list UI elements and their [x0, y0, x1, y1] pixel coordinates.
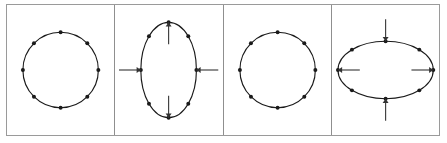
panel-2-particle-4 — [187, 102, 191, 106]
panel-1-particle-7 — [21, 68, 25, 72]
panel-1-diagram — [7, 5, 114, 135]
arrow-left-inward-head — [137, 67, 141, 73]
panel-3-particle-6 — [248, 95, 252, 99]
panel-4-particle-8 — [350, 48, 354, 52]
figure-root — [0, 0, 447, 143]
arrow-right-icon — [411, 67, 433, 73]
panel-1-particle-5 — [59, 106, 63, 110]
arrow-down-icon — [166, 96, 172, 118]
arrow-left-icon — [338, 67, 360, 73]
panel-2-particle-8 — [147, 34, 151, 38]
panel-3-particle-2 — [302, 41, 306, 45]
arrow-right-inward-icon — [197, 67, 219, 73]
panel-4-diagram — [332, 5, 439, 135]
panel-2-particle-6 — [147, 102, 151, 106]
panel-3 — [224, 5, 332, 135]
arrow-left-inward-icon — [119, 67, 141, 73]
panel-4-particle-6 — [350, 88, 354, 92]
panel-1-particle-2 — [85, 41, 89, 45]
panel-3-particle-5 — [275, 106, 279, 110]
panel-3-diagram — [224, 5, 331, 135]
panel-2-diagram — [115, 5, 222, 135]
panel-1-particle-6 — [32, 95, 36, 99]
arrow-top-inward-icon — [382, 19, 388, 41]
arrow-right-inward-head — [197, 67, 201, 73]
arrow-bottom-inward-icon — [382, 99, 388, 121]
panel-4-particle-4 — [417, 88, 421, 92]
panel-1-particle-3 — [96, 68, 100, 72]
panel-4 — [332, 5, 439, 135]
arrow-bottom-inward-head — [382, 99, 388, 103]
panel-2 — [115, 5, 223, 135]
arrow-top-inward-head — [382, 37, 388, 41]
panel-1-particle-8 — [32, 41, 36, 45]
panel-1-particle-4 — [85, 95, 89, 99]
panel-4-particle-2 — [417, 48, 421, 52]
panel-3-particle-8 — [248, 41, 252, 45]
panel-1-particle-1 — [59, 30, 63, 34]
panel-1 — [7, 5, 115, 135]
panel-strip — [7, 5, 439, 135]
panel-2-particle-2 — [187, 34, 191, 38]
panel-3-particle-1 — [275, 30, 279, 34]
panel-3-particle-4 — [302, 95, 306, 99]
panel-3-particle-3 — [313, 68, 317, 72]
arrow-up-icon — [166, 22, 172, 44]
panel-3-particle-7 — [237, 68, 241, 72]
